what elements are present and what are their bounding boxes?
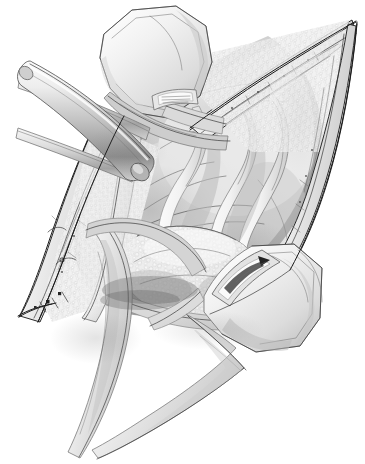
illustration-canvas bbox=[0, 0, 365, 464]
surgical-illustration: Surgical exposure through a diamond-shap… bbox=[0, 0, 365, 464]
